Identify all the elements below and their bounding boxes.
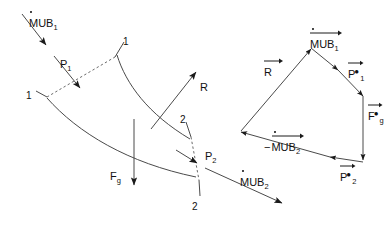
station-2-cut xyxy=(191,137,199,180)
label-vector-minus-MUB2: −MUB2 xyxy=(264,138,300,154)
label-outlet-flow: MUB2 xyxy=(240,173,269,189)
label-vector-P1-star: P●1 xyxy=(348,65,364,81)
diagram-lines xyxy=(0,0,390,225)
label-vector-P2-star: P●2 xyxy=(340,168,356,184)
label-inlet-flow: MUB1 xyxy=(29,14,58,30)
overdot-inlet-flow xyxy=(30,11,32,13)
station-1-lower-tick xyxy=(36,91,47,97)
label-vector-R: R xyxy=(264,63,272,79)
label-inlet-pressure: P1 xyxy=(60,55,72,71)
label-reaction-force: R xyxy=(200,78,208,94)
label-outlet-pressure: P2 xyxy=(205,147,217,163)
station-2-lower-tick xyxy=(199,180,200,196)
vector-P2-star xyxy=(330,157,363,162)
label-vector-Fg-star: F●g xyxy=(368,107,384,123)
station-1-cut xyxy=(47,57,115,97)
label-station-1-lower: 1 xyxy=(26,86,32,102)
overdot-outlet-flow xyxy=(242,170,244,172)
label-station-1-upper: 1 xyxy=(123,32,129,48)
figure-canvas: MUB1 P1 1 1 R Fg 2 2 P2 MUB2 R MUB1 P●1 … xyxy=(0,0,390,225)
station-2-upper-tick xyxy=(186,122,191,137)
blade-surface-lower xyxy=(47,98,196,177)
label-gravity-force: Fg xyxy=(110,167,121,183)
label-station-2-lower: 2 xyxy=(192,197,198,213)
label-vector-MUB1: MUB1 xyxy=(310,35,339,51)
reaction-force-arrow xyxy=(151,72,196,129)
label-station-2-upper: 2 xyxy=(180,110,186,126)
